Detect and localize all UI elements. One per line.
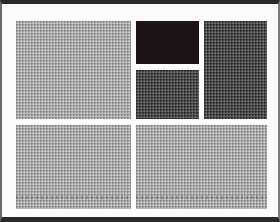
scan-streak: [16, 196, 131, 199]
block-top-right: [204, 21, 267, 119]
block-top-middle-lower: [136, 70, 199, 119]
diagram-frame: [0, 0, 280, 222]
block-top-middle-upper: [136, 21, 199, 64]
block-top-left: [16, 21, 131, 119]
block-bottom-right: [136, 125, 267, 209]
scan-streak: [136, 196, 267, 199]
block-bottom-left: [16, 125, 131, 209]
